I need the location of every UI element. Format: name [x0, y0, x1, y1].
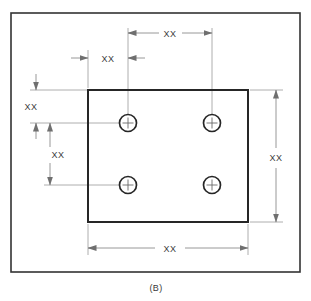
- hole-top-right: [204, 115, 221, 132]
- engineering-drawing-figure: XX XX XX XX XX XX: [0, 0, 311, 301]
- dim-value-plate-height: XX: [270, 153, 283, 163]
- dim-value-top-edge-to-first-hole-vertical: XX: [25, 102, 38, 112]
- dim-value-plate-width: XX: [164, 244, 177, 254]
- figure-background: [0, 0, 311, 301]
- drawing-canvas: XX XX XX XX XX XX: [0, 0, 311, 301]
- hole-top-left: [120, 115, 137, 132]
- figure-caption-label: (B): [150, 283, 163, 293]
- dim-value-hole-spacing-vertical: XX: [52, 150, 65, 160]
- dim-value-hole-spacing-horizontal: XX: [164, 29, 177, 39]
- dim-value-edge-to-first-hole-horizontal: XX: [102, 54, 115, 64]
- hole-bottom-right: [204, 177, 221, 194]
- hole-bottom-left: [120, 177, 137, 194]
